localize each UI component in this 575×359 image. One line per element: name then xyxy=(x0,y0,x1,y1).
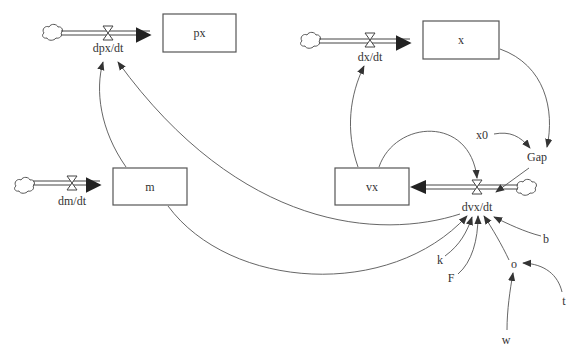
aux-x0[interactable]: x0 xyxy=(476,128,488,142)
stock-label-vx: vx xyxy=(366,180,378,194)
flow-dx-dt[interactable]: dx/dt xyxy=(301,32,410,64)
aux-w[interactable]: w xyxy=(502,333,511,347)
valve-icon xyxy=(472,180,482,194)
stock-label-px: px xyxy=(194,26,206,40)
flow-dpx-dt[interactable]: dpx/dt xyxy=(43,24,150,55)
link-vx-to-dx xyxy=(350,66,364,167)
link-x-to-gap xyxy=(500,49,550,147)
cloud-source-icon xyxy=(43,24,63,40)
aux-t[interactable]: t xyxy=(562,294,566,308)
flow-label-dm-dt: dm/dt xyxy=(58,194,87,208)
flow-label-dx-dt: dx/dt xyxy=(358,50,383,64)
valve-icon xyxy=(103,26,113,40)
aux-b[interactable]: b xyxy=(543,232,549,246)
stock-vx[interactable]: vx xyxy=(335,168,409,205)
link-m-to-dpx xyxy=(100,62,126,167)
flow-label-dpx-dt: dpx/dt xyxy=(93,41,124,55)
link-k-to-dvx xyxy=(445,217,472,256)
valve-icon xyxy=(365,33,375,47)
aux-k[interactable]: k xyxy=(437,253,443,267)
link-m-to-dvx xyxy=(168,206,467,274)
link-b-to-dvx xyxy=(494,217,541,236)
stock-flow-diagram: dpx/dt px dx/dt x dm/dt m dvx/dt xyxy=(0,0,575,359)
aux-F[interactable]: F xyxy=(448,271,455,285)
link-t-to-o xyxy=(523,263,562,292)
valve-icon xyxy=(67,176,77,190)
stock-label-x: x xyxy=(458,33,464,47)
link-w-to-o xyxy=(507,273,513,330)
aux-gap[interactable]: Gap xyxy=(527,150,547,164)
cloud-source-icon xyxy=(517,179,537,195)
flow-label-dvx-dt: dvx/dt xyxy=(462,200,493,214)
stock-label-m: m xyxy=(145,180,155,194)
link-F-to-dvx xyxy=(458,216,478,274)
stock-px[interactable]: px xyxy=(163,14,236,52)
stock-m[interactable]: m xyxy=(113,168,187,205)
stock-x[interactable]: x xyxy=(423,21,499,59)
cloud-source-icon xyxy=(15,177,35,193)
cloud-source-icon xyxy=(301,32,321,48)
link-x0-to-gap xyxy=(494,133,530,148)
aux-o[interactable]: o xyxy=(511,257,517,271)
flow-dm-dt[interactable]: dm/dt xyxy=(15,176,100,208)
flow-dvx-dt[interactable]: dvx/dt xyxy=(410,179,536,214)
